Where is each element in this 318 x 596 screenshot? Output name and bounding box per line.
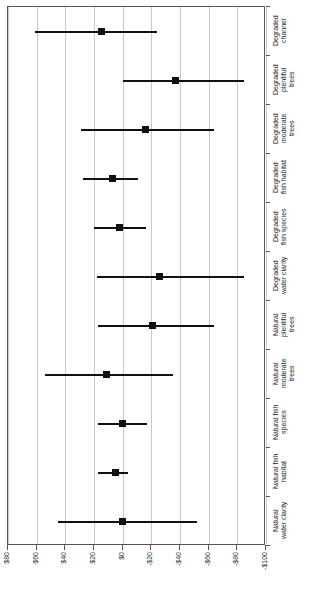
estimate-row	[8, 6, 264, 58]
category-label: Natural fish habitat	[272, 447, 318, 496]
confidence-interval-bar	[58, 521, 197, 523]
value-axis: $80$60$40$20$0-$20-$40-$60-$80-$100	[7, 545, 265, 593]
value-tick	[236, 545, 237, 550]
estimate-row	[8, 349, 264, 401]
category-label: Degraded water clarity	[272, 251, 318, 300]
category-label: Degraded moderate trees	[272, 104, 318, 153]
category-label: Degraded fish species	[272, 202, 318, 251]
estimate-point-marker	[116, 224, 123, 231]
value-tick	[7, 545, 8, 550]
estimate-row	[8, 153, 264, 205]
estimate-row	[8, 104, 264, 156]
estimate-row	[8, 496, 264, 548]
estimate-row	[8, 251, 264, 303]
estimate-point-marker	[119, 518, 126, 525]
value-tick-label: -$40	[175, 552, 182, 566]
estimate-point-marker	[98, 28, 105, 35]
estimate-point-marker	[112, 469, 119, 476]
confidence-interval-bar	[98, 325, 214, 327]
confidence-interval-bar	[123, 80, 245, 82]
estimate-row	[8, 202, 264, 254]
value-tick	[36, 545, 37, 550]
value-tick	[179, 545, 180, 550]
category-tick	[266, 496, 270, 497]
category-tick	[266, 447, 270, 448]
value-tick-label: -$20	[146, 552, 153, 566]
value-tick-label: -$60	[204, 552, 211, 566]
estimate-row	[8, 447, 264, 499]
estimate-row	[8, 398, 264, 450]
confidence-interval-bar	[35, 31, 157, 33]
category-tick	[266, 300, 270, 301]
category-tick	[266, 55, 270, 56]
value-tick	[208, 545, 209, 550]
estimate-point-marker	[156, 273, 163, 280]
forest-plot-figure: $80$60$40$20$0-$20-$40-$60-$80-$100 Degr…	[0, 0, 318, 596]
value-tick-label: $20	[89, 552, 96, 564]
category-label: Degraded channel	[272, 6, 318, 55]
value-tick	[150, 545, 151, 550]
confidence-interval-bar	[97, 276, 245, 278]
estimate-point-marker	[109, 175, 116, 182]
category-label: Degraded plentiful trees	[272, 55, 318, 104]
category-tick	[266, 545, 270, 546]
category-label: Degraded fish habitat	[272, 153, 318, 202]
estimate-row	[8, 300, 264, 352]
estimate-point-marker	[103, 371, 110, 378]
category-label: Natural moderate trees	[272, 349, 318, 398]
category-tick	[266, 398, 270, 399]
category-label: Natural plentiful trees	[272, 300, 318, 349]
category-tick	[266, 251, 270, 252]
estimate-point-marker	[119, 420, 126, 427]
category-tick	[266, 349, 270, 350]
estimate-row	[8, 55, 264, 107]
value-tick-label: $0	[118, 552, 125, 560]
category-tick	[266, 202, 270, 203]
value-tick-label: $80	[3, 552, 10, 564]
value-tick-label: -$80	[232, 552, 239, 566]
value-tick	[64, 545, 65, 550]
category-tick	[266, 153, 270, 154]
value-tick-label: $40	[60, 552, 67, 564]
category-axis: Degraded channelDegraded plentiful trees…	[266, 6, 318, 545]
category-tick	[266, 104, 270, 105]
value-tick-label: $60	[32, 552, 39, 564]
value-tick	[93, 545, 94, 550]
category-label: Natural fish species	[272, 398, 318, 447]
value-tick	[122, 545, 123, 550]
value-tick-label: -$100	[261, 552, 268, 570]
category-tick	[266, 6, 270, 7]
estimate-point-marker	[172, 77, 179, 84]
category-label: Natural water clarity	[272, 496, 318, 545]
estimate-point-marker	[142, 126, 149, 133]
plot-area	[7, 6, 265, 545]
estimate-point-marker	[149, 322, 156, 329]
